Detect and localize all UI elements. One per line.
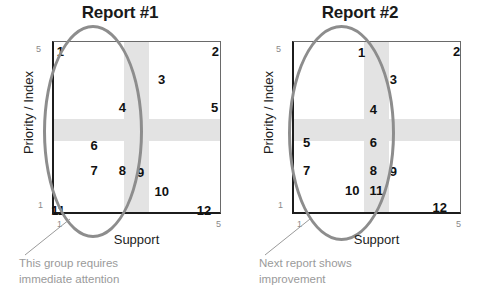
data-point-label: 9 bbox=[390, 164, 397, 177]
data-point-label: 3 bbox=[390, 72, 397, 85]
y-axis-label-left: Priority / Index bbox=[21, 58, 36, 168]
y-axis-tick-min-left: 1 bbox=[38, 201, 43, 210]
annotation-text-right: Next report shows improvement bbox=[259, 256, 352, 287]
data-point-label: 12 bbox=[433, 201, 447, 214]
chart-title-report-1: Report #1 bbox=[0, 3, 240, 23]
y-axis-tick-max-right: 5 bbox=[276, 45, 281, 54]
data-point-label: 9 bbox=[137, 165, 144, 178]
data-point-label: 3 bbox=[158, 72, 165, 85]
x-axis-label-left: Support bbox=[52, 232, 221, 247]
y-axis-label-right: Priority / Index bbox=[261, 58, 276, 168]
chart-title-report-2: Report #2 bbox=[240, 3, 480, 23]
y-axis-tick-min-right: 1 bbox=[278, 201, 283, 210]
data-point-label: 8 bbox=[119, 163, 126, 176]
data-point-label: 2 bbox=[453, 44, 460, 57]
plot-area-report-2: 123456789101112 bbox=[292, 41, 461, 214]
y-axis-tick-max-left: 5 bbox=[36, 45, 41, 54]
data-point-label: 5 bbox=[303, 136, 310, 149]
data-point-label: 8 bbox=[370, 163, 377, 176]
x-axis-tick-max-right: 5 bbox=[456, 220, 461, 229]
data-point-label: 12 bbox=[197, 203, 211, 216]
data-point-label: 2 bbox=[212, 44, 219, 57]
x-axis-tick-max-left: 5 bbox=[216, 220, 221, 229]
data-point-label: 4 bbox=[370, 103, 377, 116]
data-point-label: 1 bbox=[358, 45, 365, 58]
data-point-label: 4 bbox=[119, 100, 126, 113]
data-point-label: 1 bbox=[57, 44, 64, 57]
data-point-label: 10 bbox=[155, 185, 169, 198]
data-point-label: 6 bbox=[370, 136, 377, 149]
data-point-label: 5 bbox=[211, 100, 218, 113]
data-point-label: 10 bbox=[345, 183, 359, 196]
data-point-label: 11 bbox=[51, 203, 65, 216]
x-axis-tick-min-left: 1 bbox=[57, 220, 62, 229]
data-point-label: 6 bbox=[91, 138, 98, 151]
data-point-label: 11 bbox=[370, 183, 384, 196]
report-2-panel: Report #2 5 1 1 5 Priority / Index 12345… bbox=[240, 0, 480, 303]
annotation-text-left: This group requires immediate attention bbox=[19, 256, 119, 287]
data-point-label: 7 bbox=[303, 163, 310, 176]
x-axis-tick-min-right: 1 bbox=[297, 220, 302, 229]
plot-area-report-1: 123456789101112 bbox=[52, 41, 221, 214]
x-axis-label-right: Support bbox=[292, 232, 461, 247]
horizontal-highlight-band-left bbox=[54, 119, 220, 141]
data-point-label: 7 bbox=[91, 163, 98, 176]
report-1-panel: Report #1 5 1 1 5 Priority / Index 12345… bbox=[0, 0, 240, 303]
